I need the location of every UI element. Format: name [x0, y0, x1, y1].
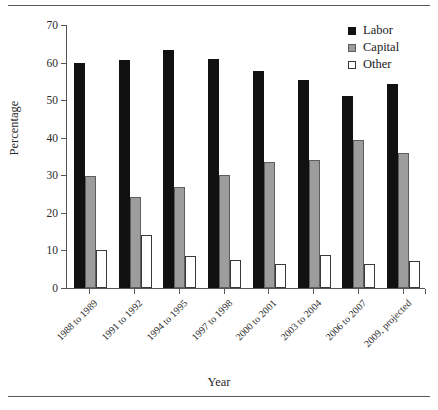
x-axis-tick-mark — [224, 289, 225, 294]
x-axis-tick-mark — [179, 289, 180, 294]
legend-swatch-other-icon — [348, 61, 356, 69]
bar-group — [298, 25, 331, 288]
y-axis-tick-label: 30 — [47, 169, 59, 181]
legend-label: Labor — [363, 24, 393, 37]
y-axis-tick-mark — [61, 213, 66, 214]
x-axis-tick-label-text: 2006 to 2007 — [323, 296, 370, 343]
x-axis-tick-label-text: 1994 to 1995 — [144, 296, 191, 343]
x-axis-tick-mark — [268, 289, 269, 294]
y-axis-tick-mark — [61, 250, 66, 251]
y-axis-tick-label: 0 — [52, 282, 58, 294]
x-axis-tick-mark — [403, 289, 404, 294]
legend-swatch-capital-icon — [348, 44, 356, 52]
chart-legend: LaborCapitalOther — [348, 22, 399, 73]
legend-label: Other — [363, 58, 391, 71]
y-axis-tick-label: 70 — [47, 19, 59, 31]
y-axis-title: Percentage — [7, 101, 22, 156]
x-axis-tick-label-text: 1988 to 1989 — [55, 296, 102, 343]
bottom-divider-rule — [8, 396, 430, 397]
y-axis-tick-mark — [61, 25, 66, 26]
y-axis-tick-label: 40 — [47, 132, 59, 144]
chart-figure: Percentage Year 010203040506070 LaborCap… — [0, 0, 438, 410]
x-axis-tick-label-text: 2000 to 2001 — [234, 296, 281, 343]
bar-group — [208, 25, 241, 288]
x-axis-tick-label-text: 2003 to 2004 — [278, 296, 325, 343]
x-axis-tick-mark — [89, 289, 90, 294]
x-axis-tick-mark — [134, 289, 135, 294]
x-axis-tick-mark — [313, 289, 314, 294]
x-axis-title: Year — [0, 375, 438, 390]
bar-labor — [253, 71, 264, 288]
legend-item-labor: Labor — [348, 22, 399, 39]
y-axis-tick-mark — [61, 100, 66, 101]
legend-item-other: Other — [348, 56, 399, 73]
y-axis-tick-mark — [61, 138, 66, 139]
top-divider-rule — [8, 5, 430, 6]
y-axis-tick-label: 10 — [47, 244, 59, 256]
y-axis-tick-label: 20 — [47, 207, 59, 219]
bar-group — [253, 25, 286, 288]
y-axis-tick-mark — [61, 63, 66, 64]
x-axis-tick-label-text: 1991 to 1992 — [99, 296, 146, 343]
legend-label: Capital — [363, 41, 399, 54]
y-axis-tick-label: 50 — [47, 94, 59, 106]
legend-item-capital: Capital — [348, 39, 399, 56]
bar-capital — [130, 197, 141, 288]
bar-group — [119, 25, 152, 288]
bar-labor — [163, 50, 174, 288]
y-axis-tick-mark — [61, 288, 66, 289]
y-axis-tick-mark — [61, 175, 66, 176]
x-axis-tick-mark — [358, 289, 359, 294]
x-axis-tick-mark — [425, 289, 426, 294]
bar-labor — [387, 84, 398, 288]
bar-other — [141, 235, 152, 288]
bar-labor — [74, 63, 85, 288]
bar-capital — [85, 176, 96, 288]
legend-swatch-labor-icon — [348, 27, 356, 35]
bar-group — [163, 25, 196, 288]
bar-labor — [298, 80, 309, 288]
bar-labor — [342, 96, 353, 288]
bar-labor — [119, 60, 130, 288]
x-axis-tick-label-text: 1997 to 1998 — [189, 296, 236, 343]
bar-group — [74, 25, 107, 288]
bar-labor — [208, 59, 219, 288]
y-axis-tick-label: 60 — [47, 57, 59, 69]
